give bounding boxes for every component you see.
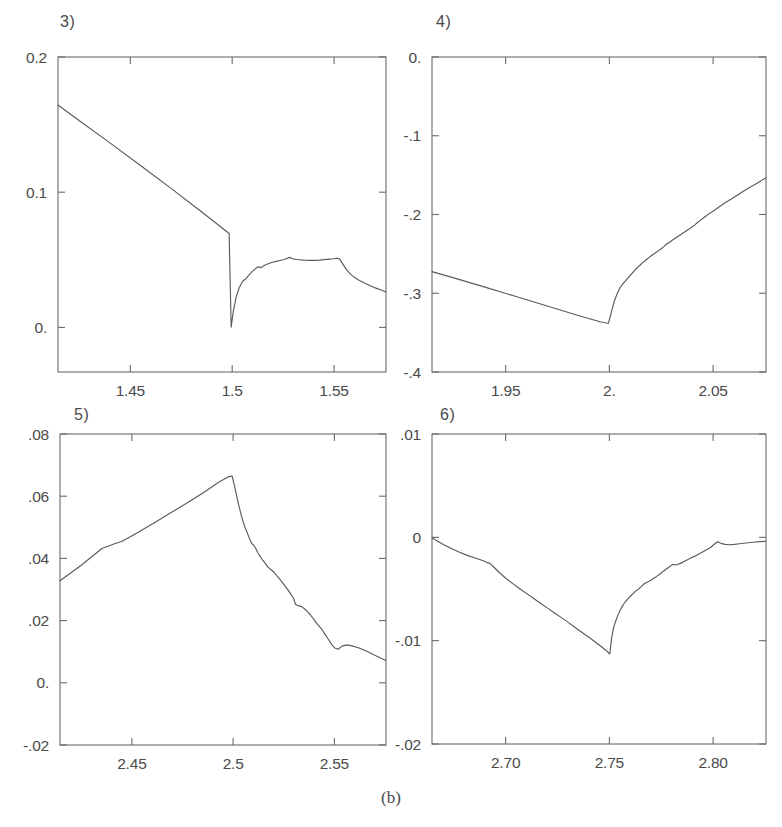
plot-panel-3: 0.20.10.1.451.51.55	[0, 30, 392, 410]
x-tick-label: 2.55	[320, 755, 349, 772]
figure-container: 3) 4) 5) 6) 0.20.10.1.451.51.55 0.-.1-.2…	[0, 0, 782, 827]
y-tick-label: .04	[28, 550, 50, 567]
x-tick-label: 1.45	[116, 382, 145, 399]
x-tick-label: 2.5	[223, 755, 244, 772]
x-tick-label: 2.70	[491, 754, 521, 771]
y-tick-label: -.4	[404, 364, 422, 381]
y-tick-label: .02	[28, 612, 49, 629]
x-tick-label: 2.80	[698, 754, 728, 771]
x-tick-label: 1.5	[222, 382, 243, 399]
x-tick-label: 1.95	[491, 382, 520, 399]
x-tick-label: 1.55	[319, 382, 348, 399]
axes-frame	[432, 434, 766, 744]
data-curve	[58, 105, 386, 327]
x-tick-label: 2.	[603, 382, 616, 399]
x-tick-label: 2.45	[117, 755, 146, 772]
x-tick-label: 2.05	[698, 382, 727, 399]
y-tick-label: 0	[413, 529, 422, 546]
y-tick-label: .08	[28, 426, 49, 443]
y-tick-label: 0.2	[26, 49, 47, 66]
y-tick-label: -.02	[23, 737, 49, 754]
y-tick-label: -.1	[404, 127, 422, 144]
data-curve	[60, 476, 386, 660]
y-tick-label: -.01	[395, 632, 421, 649]
panel-label-3: 3)	[60, 13, 75, 31]
y-tick-label: 0.1	[26, 184, 47, 201]
y-tick-label: -.02	[395, 736, 421, 753]
plot-panel-6: .010-.01-.022.702.752.80	[376, 422, 782, 792]
plot-panel-5: .08.06.04.020.-.022.452.52.55	[0, 422, 392, 792]
y-tick-label: 0.	[408, 49, 421, 66]
plot-panel-4: 0.-.1-.2-.3-.41.952.2.05	[376, 30, 782, 410]
axes-frame	[60, 434, 386, 745]
y-tick-label: .01	[400, 426, 421, 443]
axes-frame	[432, 57, 766, 372]
axes-frame	[58, 57, 386, 372]
x-tick-label: 2.75	[595, 754, 624, 771]
data-curve	[432, 538, 766, 654]
y-tick-label: 0.	[36, 674, 49, 691]
y-tick-label: 0.	[34, 319, 47, 336]
panel-label-4: 4)	[436, 13, 451, 31]
figure-caption: (b)	[0, 788, 782, 808]
y-tick-label: .06	[28, 488, 49, 505]
y-tick-label: -.2	[404, 206, 422, 223]
data-curve	[432, 178, 766, 324]
y-tick-label: -.3	[404, 285, 422, 302]
